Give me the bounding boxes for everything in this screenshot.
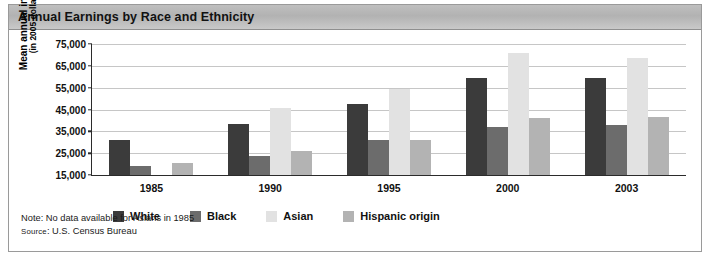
bar-b (606, 125, 627, 175)
bar-h (529, 118, 550, 175)
y-axis-tick-label: 35,000 (55, 126, 86, 137)
chart-figure: Annual Earnings by Race and Ethnicity Me… (8, 4, 702, 252)
bar-b (368, 140, 389, 175)
y-axis-tick-label: 55,000 (55, 82, 86, 93)
bar-w (109, 140, 130, 175)
x-axis-tick-label: 2003 (615, 182, 638, 194)
y-axis-tick-label: 45,000 (55, 104, 86, 115)
bar-b (249, 156, 270, 175)
legend-item: Asian (266, 210, 313, 222)
bar-groups: 19851990199520002003 (92, 44, 686, 175)
legend-swatch-icon (343, 211, 354, 222)
source-text: Source: U.S. Census Bureau (21, 225, 194, 238)
legend-label: Asian (283, 210, 313, 222)
bar-w (466, 78, 487, 175)
y-axis-tick-label: 15,000 (55, 170, 86, 181)
chart-footnotes: Note: No data available for Asians in 19… (21, 212, 194, 239)
bar-h (291, 151, 312, 175)
legend-swatch-icon (266, 211, 277, 222)
bar-b (130, 166, 151, 175)
bar-w (585, 78, 606, 175)
legend-item: Hispanic origin (343, 210, 439, 222)
x-axis-tick-label: 1985 (140, 182, 163, 194)
x-axis-tick-label: 2000 (496, 182, 519, 194)
page-title: Annual Earnings by Race and Ethnicity (9, 10, 254, 24)
x-axis-tick-label: 1990 (259, 182, 282, 194)
y-axis-tick-label: 25,000 (55, 148, 86, 159)
bar-h (410, 140, 431, 175)
bar-a (389, 89, 410, 175)
bar-a (508, 53, 529, 175)
y-axis-tick-label: 65,000 (55, 60, 86, 71)
source-prefix: Source (21, 227, 47, 236)
bar-group: 1995 (330, 44, 449, 175)
y-axis-title: Mean annual income (in 2005 dollars) (15, 0, 41, 80)
y-axis-tick-label: 75,000 (55, 39, 86, 50)
bar-group: 2000 (448, 44, 567, 175)
chart-title-band: Annual Earnings by Race and Ethnicity (9, 5, 701, 30)
note-text: Note: No data available for Asians in 19… (21, 212, 194, 225)
bar-group: 1990 (211, 44, 330, 175)
bar-h (648, 117, 669, 175)
bar-group: 1985 (92, 44, 211, 175)
legend-label: Black (207, 210, 236, 222)
y-axis-title-line2: (in 2005 dollars) (29, 0, 39, 53)
bar-group: 2003 (567, 44, 686, 175)
bar-b (487, 127, 508, 175)
bar-w (347, 104, 368, 175)
x-axis-tick-label: 1995 (377, 182, 400, 194)
chart-body: Mean annual income (in 2005 dollars) 15,… (9, 30, 701, 251)
source-rest: : U.S. Census Bureau (47, 226, 137, 236)
bar-a (627, 58, 648, 175)
legend-item: Black (190, 210, 236, 222)
bar-w (228, 124, 249, 175)
bar-a (270, 108, 291, 175)
plot-area: 15,00025,00035,00045,00055,00065,00075,0… (91, 44, 686, 176)
legend-label: Hispanic origin (360, 210, 439, 222)
bar-h (172, 163, 193, 175)
